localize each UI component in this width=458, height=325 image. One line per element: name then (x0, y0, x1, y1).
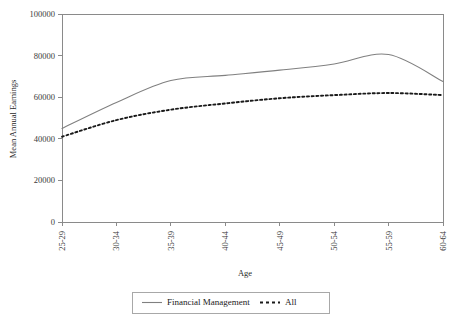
legend-label-0: Financial Management (167, 297, 250, 307)
y-axis-title: Mean Annual Earnings (8, 80, 18, 158)
x-tick-label: 60-64 (438, 230, 448, 251)
y-tick-label: 60000 (34, 92, 55, 102)
x-axis-ticks: 25-2930-3435-3940-4445-4950-5455-5960-64 (57, 222, 448, 251)
plot-border (62, 14, 443, 222)
y-axis-ticks: 020000400006000080000100000 (30, 9, 63, 227)
chart-container: 020000400006000080000100000 25-2930-3435… (0, 0, 458, 325)
series-line-0 (62, 54, 443, 128)
y-tick-label: 20000 (34, 175, 55, 185)
legend-label-1: All (285, 297, 297, 307)
chart-legend: Financial ManagementAll (132, 292, 329, 313)
x-tick-label: 55-59 (384, 231, 394, 251)
y-tick-label: 0 (51, 217, 55, 227)
x-tick-label: 30-34 (111, 230, 121, 251)
y-tick-label: 40000 (34, 134, 55, 144)
series-layer (62, 54, 443, 137)
plot-frame (62, 14, 443, 222)
series-line-1 (62, 93, 443, 137)
x-tick-label: 40-44 (220, 230, 230, 251)
x-tick-label: 45-49 (275, 231, 285, 251)
x-axis-title: Age (238, 268, 252, 278)
x-tick-label: 50-54 (329, 230, 339, 251)
x-tick-label: 25-29 (57, 231, 67, 251)
x-tick-label: 35-39 (166, 231, 176, 251)
y-tick-label: 80000 (34, 51, 55, 61)
line-chart: 020000400006000080000100000 25-2930-3435… (0, 0, 458, 325)
y-tick-label: 100000 (30, 9, 56, 19)
